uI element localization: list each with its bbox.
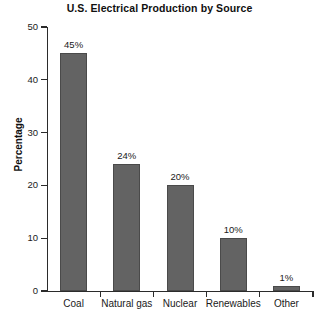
y-axis-tick-label: 10 — [0, 233, 38, 243]
bar-value-label: 10% — [203, 225, 263, 235]
x-axis-tick — [259, 291, 260, 297]
y-axis-tick — [41, 290, 47, 291]
y-axis-tick — [41, 132, 47, 133]
bar-coal — [60, 53, 87, 291]
y-axis-tick-label: 0 — [0, 286, 38, 296]
bar-renewables — [220, 238, 247, 291]
bar-value-label: 1% — [256, 273, 316, 283]
y-axis-tick-label: 20 — [0, 180, 38, 190]
bar-value-label: 45% — [44, 40, 104, 50]
y-axis-tick — [41, 79, 47, 80]
bar-chart: U.S. Electrical Production by Source Per… — [0, 0, 319, 319]
x-axis-tick — [206, 291, 207, 297]
x-axis-category-label: Other — [241, 299, 319, 309]
y-axis-tick — [41, 185, 47, 186]
bar-other — [273, 286, 300, 291]
x-axis-tick — [100, 291, 101, 297]
y-axis-tick — [41, 238, 47, 239]
x-axis-tick — [312, 291, 313, 297]
bar-value-label: 20% — [150, 172, 210, 182]
chart-title: U.S. Electrical Production by Source — [0, 2, 319, 14]
bar-nuclear — [167, 185, 194, 291]
y-axis-tick-label: 50 — [0, 22, 38, 32]
x-axis-tick — [153, 291, 154, 297]
y-axis-tick-label: 30 — [0, 128, 38, 138]
y-axis-line — [47, 27, 48, 292]
bar-value-label: 24% — [97, 151, 157, 161]
y-axis-tick — [41, 26, 47, 27]
y-axis-tick-label: 40 — [0, 75, 38, 85]
bar-natural-gas — [113, 164, 140, 291]
